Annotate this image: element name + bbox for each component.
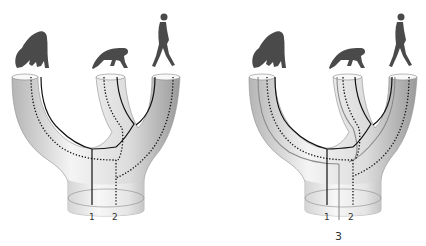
lineage-label-1: 1 (89, 212, 95, 222)
gorilla-icon (252, 31, 286, 68)
lineage-label-3: 3 (335, 230, 342, 243)
lineage-label-2: 2 (112, 212, 118, 222)
lineage-label-2: 2 (348, 212, 354, 222)
human-icon (389, 14, 412, 68)
human-icon (152, 14, 175, 68)
species-tree-diagram-left: 1 2 (0, 0, 213, 246)
gorilla-icon (15, 31, 49, 68)
panel-right-three-lineages: 1 2 3 (213, 0, 426, 246)
chimpanzee-icon (92, 48, 128, 69)
species-tree-tube (249, 74, 417, 216)
lineage-label-1: 1 (324, 212, 330, 222)
panel-left-two-lineages: 1 2 (0, 0, 213, 246)
species-tree-tube (12, 74, 180, 216)
chimpanzee-icon (329, 48, 365, 69)
species-tree-diagram-right: 1 2 3 (213, 0, 426, 246)
